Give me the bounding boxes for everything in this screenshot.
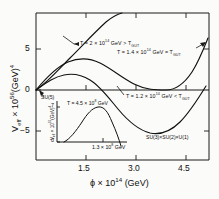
inset-title: T = 4.5 × 108 GeV xyxy=(67,101,108,106)
inset-y-axis-title: Veff × 1031(GeV)4 xyxy=(50,106,55,140)
figure-container: Veff × 1056(GeV)4 5 0 −5 1.5 3.0 4.5 ϕ ×… xyxy=(0,0,219,199)
inset-y-tick-label-0: 0 xyxy=(51,138,54,143)
x-tick-label-1p5: 1.5 xyxy=(78,164,90,173)
x-tick-label-4p5: 4.5 xyxy=(178,164,190,173)
curve-label-at-tgut: T = 1.4 × 1014 GeV = TGUT xyxy=(117,50,181,55)
curve-label-below-tgut: T = 1.2 × 1014 GeV < TGUT xyxy=(126,94,190,99)
arrowhead-curve1 xyxy=(74,42,79,46)
curve-below-tgut xyxy=(36,74,206,133)
leader-curve1 xyxy=(63,36,74,44)
x-axis-title: ϕ × 1014 (GeV) xyxy=(90,179,149,188)
inset-curve xyxy=(64,107,121,146)
curve-above-tgut xyxy=(36,13,122,90)
y-tick-label-minus5: −5 xyxy=(20,126,30,135)
inset-x-tick-label: 1.3 × 108 GeV xyxy=(92,145,125,150)
y-tick-label-5: 5 xyxy=(25,44,30,53)
x-tick-label-3p0: 3.0 xyxy=(128,164,140,173)
y-tick-label-0: 0 xyxy=(25,85,30,94)
curve-label-above-tgut: T = 2 × 1014 GeV > TGUT xyxy=(80,41,139,46)
y-axis-title: Veff × 1056(GeV)4 xyxy=(11,65,20,132)
phase-label-broken: SU(3)×SU(2)×U(1) xyxy=(146,135,188,140)
inset-y-tick-label-7: 7 xyxy=(51,103,54,108)
phase-label-su5: SU(5) xyxy=(41,95,54,100)
